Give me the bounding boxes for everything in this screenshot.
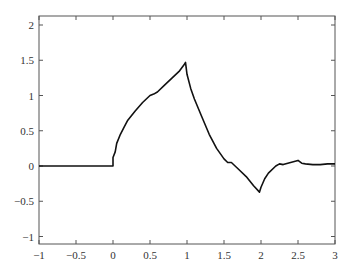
plot-frame xyxy=(39,16,335,244)
y-axis: −1−0.500.511.52 xyxy=(14,19,335,243)
line-chart: −1−0.500.511.522.53 −1−0.500.511.52 xyxy=(0,0,350,271)
x-tick-label: 0 xyxy=(110,249,116,261)
y-tick-label: −0.5 xyxy=(14,195,34,207)
x-tick-label: −0.5 xyxy=(66,249,86,261)
x-tick-label: 2.5 xyxy=(291,249,305,261)
y-tick-label: −1 xyxy=(22,231,34,243)
x-tick-label: 1.5 xyxy=(217,249,231,261)
x-tick-label: 2 xyxy=(258,249,264,261)
data-line xyxy=(39,62,335,192)
y-tick-label: 1 xyxy=(29,90,35,102)
x-tick-label: 0.5 xyxy=(143,249,157,261)
y-tick-label: 0.5 xyxy=(20,125,34,137)
x-axis: −1−0.500.511.522.53 xyxy=(33,16,338,261)
x-tick-label: 1 xyxy=(184,249,190,261)
x-tick-label: 3 xyxy=(332,249,338,261)
x-tick-label: −1 xyxy=(33,249,45,261)
y-tick-label: 0 xyxy=(29,160,35,172)
y-tick-label: 1.5 xyxy=(20,54,34,66)
y-tick-label: 2 xyxy=(29,19,35,31)
